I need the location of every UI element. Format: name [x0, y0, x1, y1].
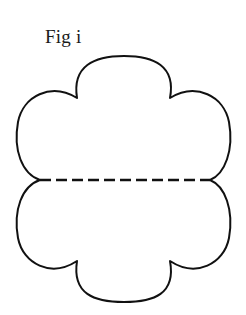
- figure-container: Fig i: [0, 0, 246, 315]
- flower-figure-svg: [0, 0, 246, 315]
